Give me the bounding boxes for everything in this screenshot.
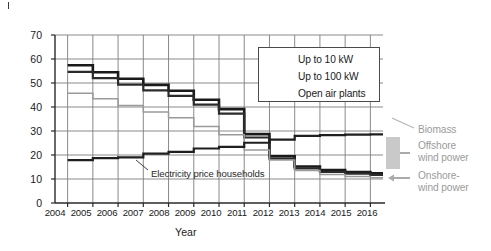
legend-item-open-air-plants: Open air plants [264,85,378,101]
legend: Up to 10 kW Up to 100 kW Open air plants [258,47,380,102]
offshore-marker-block [386,137,400,169]
annotation-onshore-wind-power-line1: Onshore- [418,170,460,182]
series-electricity-price-households [68,134,383,160]
legend-item-up-to-100-kw: Up to 100 kW [264,68,378,84]
annotation-offshore-wind-power-line2: wind power [418,152,469,164]
legend-label-up-to-10-kw: Up to 10 kW [298,54,353,65]
chart-figure: Feed-in tariff and price respectively (¢… [0,0,491,251]
annotation-offshore-wind-power-line1: Offshore [418,140,456,152]
annotation-electricity-price-households: Electricity price households [151,168,264,179]
legend-label-open-air-plants: Open air plants [298,88,366,99]
annotation-onshore-wind-power-line2: wind power [418,182,469,194]
annotation-biomass: Biomass [418,124,456,136]
callout-leader-lines [136,160,148,170]
legend-label-up-to-100-kw: Up to 100 kW [298,71,359,82]
legend-item-up-to-10-kw: Up to 10 kW [264,51,378,67]
